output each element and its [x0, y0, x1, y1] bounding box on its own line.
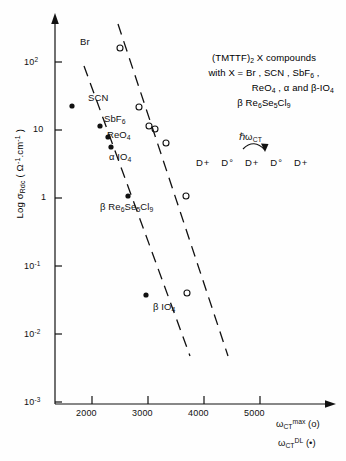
site-4: D° [270, 157, 283, 168]
x-tick-label-2000: 2000 [76, 408, 97, 418]
y-axis-units-mid: .cm [14, 142, 25, 158]
x-axis-title-open: ωCTmax (o) [276, 418, 320, 430]
point-open-bre [183, 193, 189, 199]
point-filled-bre [125, 193, 130, 198]
point-open-aio4 [163, 140, 169, 146]
x-tick-label-4000: 4000 [188, 408, 209, 418]
site-2: D° [221, 157, 234, 168]
point-filled-aio4 [108, 144, 113, 149]
point-label-beta-re6se5cl9: β Re6Se5Cl9 [100, 201, 153, 213]
point-label-alpha-io4: α IO4 [109, 151, 131, 163]
x-axis [55, 400, 336, 408]
point-open-bio4 [184, 290, 190, 296]
omega-symbol: ω [245, 131, 253, 142]
omega-filled-sup: DL [295, 437, 304, 444]
x-axis-title-filled: ωCTDL (•) [278, 437, 316, 449]
annotation-line-4: β Re6Se5Cl9 [188, 97, 340, 112]
y-tick-label-1: 1 [41, 192, 46, 202]
compound-annotation: (TMTTF)2 X compounds with X = Br , SCN ,… [188, 52, 340, 112]
charge-transfer-energy-label: ℏωCT [239, 131, 262, 146]
x-tick-label-3000: 3000 [132, 408, 153, 418]
series-open-points [117, 45, 190, 296]
omega-filled-sub: CT [285, 442, 294, 449]
y-tick-marks [55, 62, 62, 402]
y-axis-units-close: ) [14, 129, 25, 135]
y-tick-label-10: 10 [33, 124, 43, 134]
point-label-scn: SCN [88, 92, 108, 103]
point-filled-scn [69, 103, 74, 108]
omega-open-sup: max [293, 418, 306, 425]
y-axis-units-sup1: -1 [14, 158, 21, 164]
annotation-line-2: with X = Br , SCN , SbF6 , [188, 67, 340, 82]
point-label-br: Br [80, 36, 90, 47]
x-tick-marks [92, 396, 260, 404]
y-axis-units-open: ( Ω [14, 164, 25, 178]
omega-ct-sub: CT [253, 136, 262, 143]
site-5: D+ [294, 157, 308, 168]
site-1: D+ [196, 157, 210, 168]
figure-root: Log σRdc ( Ω-1.cm-1 ) 102 10 1 10-1 10-2… [0, 0, 346, 461]
hopping-site-row: D+ D° D+ D° D+ [196, 157, 308, 170]
annotation-line-1: (TMTTF)2 X compounds [188, 52, 340, 67]
y-tick-label-1e-3: 10-3 [24, 396, 41, 407]
point-open-scn [136, 104, 142, 110]
site-3: D+ [245, 157, 259, 168]
y-axis-title-subscript: Rdc [19, 180, 26, 193]
point-label-reo4: ReO4 [107, 129, 131, 141]
point-filled-bio4 [143, 292, 148, 297]
point-label-sbf6: SbF6 [104, 113, 126, 125]
y-tick-label-1e-2: 10-2 [24, 328, 41, 339]
x-tick-label-5000: 5000 [244, 408, 265, 418]
filled-marker-legend: (•) [306, 437, 316, 448]
y-axis-title-sigma: Log σ [14, 193, 25, 218]
y-axis-units-sup2: -1 [14, 135, 21, 141]
open-marker-legend: (o) [308, 418, 320, 429]
point-open-br [117, 45, 123, 51]
annotation-line-3: ReO4 , α and β-IO4 [188, 82, 340, 97]
y-tick-label-1e2: 102 [24, 56, 38, 67]
omega-open-sub: CT [283, 423, 292, 430]
point-label-beta-io4: β IO4 [153, 301, 175, 313]
point-filled-sbf6 [97, 123, 102, 128]
y-tick-label-1e-1: 10-1 [24, 260, 41, 271]
point-open-sbf6 [146, 123, 152, 129]
y-axis [51, 13, 59, 404]
y-axis-title: Log σRdc ( Ω-1.cm-1 ) [14, 109, 26, 239]
